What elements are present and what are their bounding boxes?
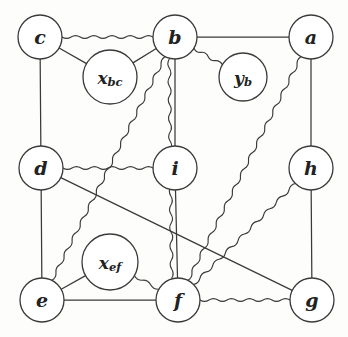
node-xbc[interactable]: xbc bbox=[83, 50, 137, 104]
edge-e-xef bbox=[61, 276, 85, 290]
node-g[interactable]: g bbox=[290, 278, 334, 322]
edge-f-g bbox=[200, 299, 290, 302]
graph-diagram: cbaxbcybdihxefefg bbox=[0, 0, 348, 337]
node-label-i: i bbox=[171, 157, 178, 179]
edge-xbc-b bbox=[133, 49, 156, 63]
node-label-c: c bbox=[34, 26, 46, 48]
node-label-e: e bbox=[36, 289, 48, 311]
node-label-d: d bbox=[34, 157, 47, 179]
node-d[interactable]: d bbox=[19, 146, 63, 190]
edge-b-yb bbox=[194, 48, 222, 65]
graph-canvas: cbaxbcybdihxefefg bbox=[0, 0, 348, 337]
node-label-a: a bbox=[305, 26, 317, 48]
node-layer: cbaxbcybdihxefefg bbox=[18, 15, 334, 322]
edge-h-g bbox=[311, 190, 312, 278]
edge-h-f bbox=[194, 184, 296, 285]
node-h[interactable]: h bbox=[289, 146, 333, 190]
node-f[interactable]: f bbox=[156, 278, 200, 322]
edge-c-d bbox=[40, 59, 41, 146]
node-xef[interactable]: xef bbox=[82, 234, 138, 290]
edge-xef-f bbox=[134, 276, 158, 290]
node-label-g: g bbox=[305, 289, 318, 311]
node-e[interactable]: e bbox=[20, 278, 64, 322]
node-a[interactable]: a bbox=[289, 15, 333, 59]
node-b[interactable]: b bbox=[153, 15, 197, 59]
node-label-b: b bbox=[168, 26, 181, 48]
node-c[interactable]: c bbox=[18, 15, 62, 59]
node-i[interactable]: i bbox=[153, 146, 197, 190]
edge-d-e bbox=[41, 190, 42, 278]
edge-c-xbc bbox=[59, 48, 86, 64]
node-label-h: h bbox=[304, 157, 318, 179]
node-yb[interactable]: yb bbox=[219, 53, 267, 101]
edge-c-b bbox=[62, 36, 153, 39]
